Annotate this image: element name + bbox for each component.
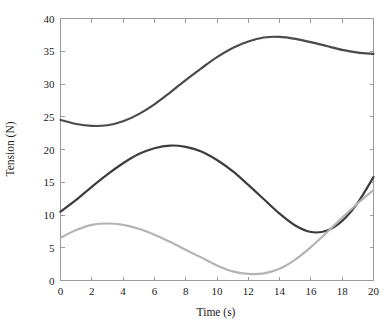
x-tick-label: 16 [305,285,317,297]
x-tick-label: 2 [89,285,95,297]
x-axis-title: Time (s) [197,306,236,319]
x-tick-label: 8 [183,285,189,297]
tension-vs-time-line-chart: 02468101214161820 0510152025303540 Time … [0,0,390,325]
series-line-middle-curve [61,146,374,233]
chart-figure: 02468101214161820 0510152025303540 Time … [0,0,390,325]
series-line-lower-curve [61,190,374,274]
y-tick-label: 40 [44,13,56,25]
x-tick-label: 12 [243,285,254,297]
y-axis-title: Tension (N) [4,121,17,176]
y-tick-label: 35 [44,45,56,57]
y-tick-label: 15 [44,176,56,188]
x-axis-tick-labels: 02468101214161820 [58,285,380,297]
y-tick-label: 0 [49,275,55,287]
y-tick-label: 10 [44,209,56,221]
x-tick-label: 4 [120,285,126,297]
y-tick-label: 30 [44,78,56,90]
x-tick-label: 10 [212,285,224,297]
x-tick-label: 6 [152,285,158,297]
x-tick-label: 20 [368,285,380,297]
x-tick-label: 0 [58,285,64,297]
y-tick-label: 5 [49,242,55,254]
y-tick-label: 25 [44,111,56,123]
y-axis-tick-labels: 0510152025303540 [44,13,56,287]
y-tick-label: 20 [44,144,56,156]
series-line-upper-curve [61,37,374,126]
data-series-group [61,37,374,274]
x-tick-label: 14 [274,285,286,297]
x-tick-label: 18 [337,285,349,297]
